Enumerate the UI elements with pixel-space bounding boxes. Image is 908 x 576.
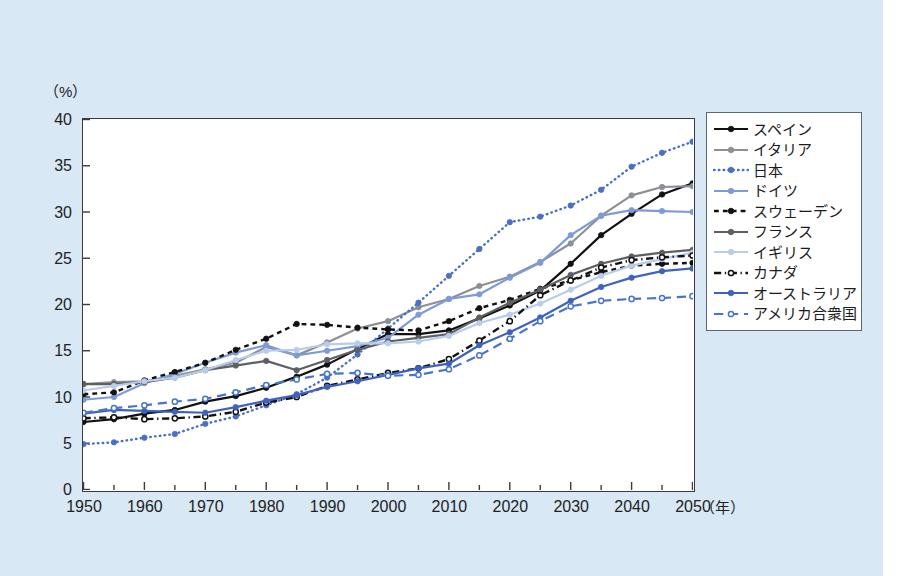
legend-swatch-italy-icon xyxy=(713,143,749,157)
x-tick-1960: 1960 xyxy=(115,498,175,516)
legend-swatch-germany-icon xyxy=(713,184,749,198)
legend-item-japan[interactable]: 日本 xyxy=(713,160,855,181)
legend-swatch-uk-icon xyxy=(713,245,749,259)
legend-item-australia[interactable]: オーストラリア xyxy=(713,283,855,304)
legend-item-france[interactable]: フランス xyxy=(713,222,855,243)
x-tick-2050: 2050 xyxy=(663,498,723,516)
legend-item-italy[interactable]: イタリア xyxy=(713,140,855,161)
y-tick-10: 10 xyxy=(38,389,72,407)
legend-label-germany: ドイツ xyxy=(753,183,798,198)
x-tick-1980: 1980 xyxy=(237,498,297,516)
plot-area xyxy=(82,118,695,492)
x-tick-2000: 2000 xyxy=(359,498,419,516)
legend-label-japan: 日本 xyxy=(753,163,783,178)
legend-label-sweden: スウェーデン xyxy=(753,204,843,219)
y-tick-20: 20 xyxy=(38,296,72,314)
line-chart-svg xyxy=(83,119,693,490)
legend-item-canada[interactable]: カナダ xyxy=(713,263,855,284)
legend-label-canada: カナダ xyxy=(753,265,798,280)
x-tick-2010: 2010 xyxy=(419,498,479,516)
legend-swatch-japan-icon xyxy=(713,163,749,177)
y-tick-5: 5 xyxy=(38,435,72,453)
legend-item-spain[interactable]: スペイン xyxy=(713,119,855,140)
legend-swatch-spain-icon xyxy=(713,122,749,136)
x-tick-2040: 2040 xyxy=(602,498,662,516)
legend-swatch-france-icon xyxy=(713,225,749,239)
legend-swatch-sweden-icon xyxy=(713,204,749,218)
y-tick-0: 0 xyxy=(38,481,72,499)
figure-panel: （%） （年） 4035302520151050 195019601970198… xyxy=(0,0,883,576)
legend-label-australia: オーストラリア xyxy=(753,286,857,301)
y-tick-35: 35 xyxy=(38,157,72,175)
legend-label-usa: アメリカ合衆国 xyxy=(753,306,857,321)
x-tick-1950: 1950 xyxy=(54,498,114,516)
x-tick-2030: 2030 xyxy=(541,498,601,516)
legend-item-uk[interactable]: イギリス xyxy=(713,242,855,263)
legend-swatch-canada-icon xyxy=(713,266,749,280)
legend-item-sweden[interactable]: スウェーデン xyxy=(713,201,855,222)
legend-label-uk: イギリス xyxy=(753,245,813,260)
legend-swatch-usa-icon xyxy=(713,307,749,321)
y-axis-unit-label: （%） xyxy=(44,80,87,101)
x-tick-2020: 2020 xyxy=(480,498,540,516)
x-tick-1970: 1970 xyxy=(176,498,236,516)
series-usa xyxy=(83,294,693,416)
legend-swatch-australia-icon xyxy=(713,286,749,300)
legend-label-france: フランス xyxy=(753,224,813,239)
y-tick-15: 15 xyxy=(38,342,72,360)
legend-label-spain: スペイン xyxy=(753,122,812,137)
y-tick-40: 40 xyxy=(38,111,72,129)
legend-item-germany[interactable]: ドイツ xyxy=(713,181,855,202)
x-tick-1990: 1990 xyxy=(298,498,358,516)
y-tick-30: 30 xyxy=(38,204,72,222)
legend-label-italy: イタリア xyxy=(753,142,812,157)
legend-item-usa[interactable]: アメリカ合衆国 xyxy=(713,304,855,325)
y-tick-25: 25 xyxy=(38,250,72,268)
chart-legend: スペインイタリア日本ドイツスウェーデンフランスイギリスカナダオーストラリアアメリ… xyxy=(706,112,862,331)
